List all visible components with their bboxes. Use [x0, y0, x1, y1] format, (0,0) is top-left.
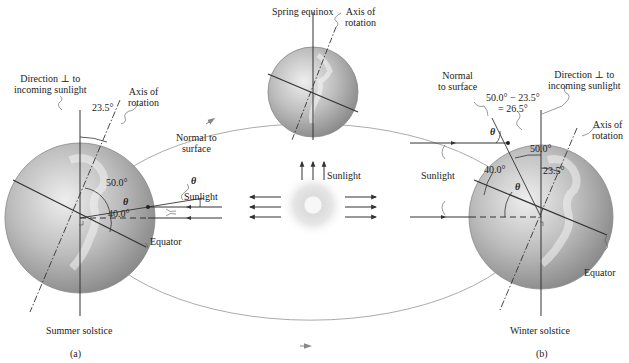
- winter-solstice-caption: Winter solstice: [510, 325, 570, 336]
- left-tilt-angle: 23.5°: [92, 103, 114, 113]
- globe-summer-solstice: [5, 96, 222, 316]
- right-axis-label-line1: Axis of: [592, 119, 623, 130]
- left-axis-label-line2: rotation: [128, 97, 159, 108]
- panel-a-label: (a): [70, 348, 81, 359]
- left-direction-label: Direction ⊥ to incoming sunlight: [14, 73, 87, 95]
- summer-solstice-caption: Summer solstice: [46, 325, 112, 336]
- panel-b-label: (b): [536, 348, 548, 359]
- left-theta-outer: θ: [191, 175, 196, 186]
- top-axis-label-line1: Axis of: [345, 6, 376, 17]
- left-direction-label-line1: Direction ⊥ to: [14, 73, 87, 84]
- right-direction-label: Direction ⊥ to incoming sunlight: [548, 69, 621, 91]
- right-theta-outer: θ: [490, 126, 495, 137]
- right-normal-label-line2: to surface: [438, 81, 477, 92]
- center-sunlight-label: Sunlight: [327, 170, 361, 181]
- diagram-canvas: [0, 0, 629, 363]
- left-angle-50: 50.0°: [106, 178, 128, 188]
- right-angle-50: 50.0°: [530, 144, 552, 154]
- left-normal-label: Normal to surface: [176, 132, 217, 154]
- top-axis-label-line2: rotation: [345, 17, 376, 28]
- right-direction-label-line2: incoming sunlight: [548, 80, 621, 91]
- right-direction-label-line1: Direction ⊥ to: [548, 69, 621, 80]
- right-theta-inner: θ: [515, 181, 520, 192]
- right-axis-label: Axis of rotation: [592, 119, 623, 141]
- seasons-diagram: Spring equinox Axis of rotation Directio…: [0, 0, 629, 363]
- right-formula-line1: 50.0° − 23.5°: [486, 92, 540, 103]
- left-normal-label-line2: surface: [176, 143, 217, 154]
- globe-winter-solstice: [410, 86, 613, 316]
- left-axis-label: Axis of rotation: [128, 86, 159, 108]
- right-formula-line2: = 26.5°: [486, 103, 540, 114]
- right-normal-label: Normal to surface: [438, 70, 477, 92]
- left-direction-label-line2: incoming sunlight: [14, 84, 87, 95]
- right-angle-40: 40.0°: [484, 165, 506, 175]
- right-normal-label-line1: Normal: [438, 70, 477, 81]
- globe-spring-equinox: [268, 12, 358, 140]
- spring-equinox-title: Spring equinox: [272, 6, 333, 17]
- left-theta-inner: θ: [123, 196, 128, 207]
- left-axis-label-line1: Axis of: [128, 86, 159, 97]
- right-axis-label-line2: rotation: [592, 130, 623, 141]
- left-normal-label-line1: Normal to: [176, 132, 217, 143]
- right-sunlight-label: Sunlight: [421, 170, 455, 181]
- left-equator-label: Equator: [150, 236, 182, 247]
- top-axis-label: Axis of rotation: [345, 6, 376, 28]
- left-angle-40: 40.0°: [108, 209, 130, 219]
- right-tilt-angle: 23.5°: [543, 166, 565, 176]
- left-sunlight-label: Sunlight: [184, 191, 218, 202]
- right-equator-label: Equator: [584, 267, 616, 278]
- right-formula-label: 50.0° − 23.5° = 26.5°: [486, 92, 540, 114]
